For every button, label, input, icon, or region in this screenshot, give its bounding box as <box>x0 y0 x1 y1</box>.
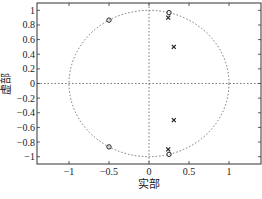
x-tick-label: 0.5 <box>183 166 196 177</box>
y-tick-label: 0.2 <box>23 63 36 74</box>
y-tick-label: 0.8 <box>23 19 36 30</box>
pole-zero-plot: −1−0.500.51 10.80.60.40.20−0.2−0.4−0.6−0… <box>0 0 262 199</box>
x-tick-label: 1 <box>227 166 232 177</box>
y-tick-label: −1 <box>24 151 35 162</box>
y-tick-label: −0.8 <box>17 137 35 148</box>
pole-zero-markers <box>107 10 176 156</box>
y-axis-label: 虚部 <box>0 73 13 95</box>
y-tick-label: −0.2 <box>17 93 35 104</box>
x-tick-label: −0.5 <box>100 166 118 177</box>
y-tick-label: 0.6 <box>23 34 36 45</box>
reference-lines <box>37 3 261 164</box>
x-tick-label: −1 <box>64 166 75 177</box>
y-tick-label: 0 <box>30 78 35 89</box>
pole-marker-icon <box>172 118 176 122</box>
pole-marker-icon <box>166 16 170 20</box>
y-tick-labels: 10.80.60.40.20−0.2−0.4−0.6−0.8−1 <box>17 5 35 162</box>
y-tick-label: 1 <box>30 5 35 16</box>
pole-marker-icon <box>172 45 176 49</box>
x-tick-label: 0 <box>147 166 152 177</box>
y-tick-label: 0.4 <box>23 49 36 60</box>
x-tick-labels: −1−0.500.51 <box>64 166 232 177</box>
pole-marker-icon <box>166 147 170 151</box>
y-tick-label: −0.4 <box>17 107 35 118</box>
y-tick-label: −0.6 <box>17 122 35 133</box>
x-axis-label: 实部 <box>138 177 160 191</box>
